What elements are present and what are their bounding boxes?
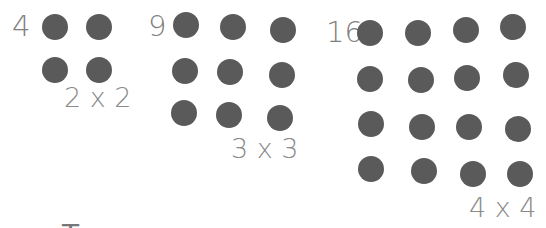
dot: [500, 14, 526, 40]
dot: [405, 20, 431, 46]
count-label-9: 9: [148, 12, 166, 41]
dot: [507, 161, 533, 187]
dot: [269, 62, 295, 88]
dot: [503, 62, 529, 88]
dot: [358, 156, 384, 182]
dot: [171, 100, 197, 126]
dot: [409, 114, 435, 140]
dot: [42, 14, 68, 40]
dot: [42, 57, 68, 83]
dimension-label-3x3: 3 x 3: [231, 135, 299, 162]
dot: [172, 58, 198, 84]
dot: [357, 66, 383, 92]
cropped-text: T: [62, 222, 79, 228]
dot: [267, 105, 293, 131]
dot: [86, 14, 112, 40]
dot: [220, 14, 246, 40]
dimension-label-4x4: 4 x 4: [469, 194, 537, 221]
count-label-4: 4: [12, 12, 30, 41]
dot: [270, 17, 296, 43]
dot: [453, 17, 479, 43]
dot: [454, 65, 480, 91]
dot: [217, 59, 243, 85]
dot: [411, 158, 437, 184]
dot: [456, 114, 482, 140]
dot: [357, 20, 383, 46]
dot: [86, 57, 112, 83]
dot: [358, 111, 384, 137]
dot: [216, 102, 242, 128]
dot: [408, 67, 434, 93]
dot: [460, 161, 486, 187]
dot: [505, 116, 531, 142]
dot: [173, 12, 199, 38]
dimension-label-2x2: 2 x 2: [64, 84, 132, 111]
